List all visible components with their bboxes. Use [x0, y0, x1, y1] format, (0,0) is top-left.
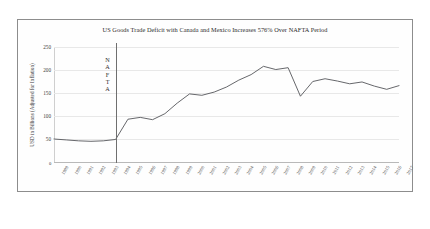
x-axis-tick-label: 1994: [123, 165, 132, 175]
x-axis-tick-label: 2009: [307, 165, 316, 175]
x-axis-tick-label: 2011: [332, 165, 341, 175]
plot-area: 50100150200250 NAFTA: [54, 47, 399, 162]
nafta-letter: A: [105, 85, 109, 92]
x-axis-tick-label: 2008: [295, 165, 304, 175]
x-axis-tick-label: 2007: [283, 165, 292, 175]
x-axis-tick-label: 2000: [197, 165, 206, 175]
x-axis-tick-label: 2014: [369, 165, 378, 175]
nafta-vertical-line: [116, 43, 117, 163]
y-axis-tick-label: 50: [46, 136, 51, 142]
x-axis-tick-label: 2017: [406, 165, 415, 175]
x-axis-tick-label: 1989: [61, 165, 70, 175]
x-axis-tick-label: 1991: [86, 165, 95, 175]
x-axis-tick-label: 1992: [98, 165, 107, 175]
y-axis-title: USD in Billions (Adjusted for Inflation): [27, 47, 37, 162]
x-axis-tick-label: 2005: [258, 165, 267, 175]
x-axis-tick-label: 1995: [135, 165, 144, 175]
nafta-annotation-label: NAFTA: [103, 56, 113, 93]
x-axis-tick-label: 2001: [209, 165, 218, 175]
y-axis-tick-label: 150: [43, 90, 51, 96]
nafta-letter: T: [106, 78, 110, 85]
nafta-letter: A: [105, 63, 109, 70]
x-axis-tick-label: 1996: [147, 165, 156, 175]
x-axis-tick-label: 2006: [270, 165, 279, 175]
y-axis-tick-label: 100: [43, 113, 51, 119]
chart-figure: US Goods Trade Deficit with Canada and M…: [17, 19, 413, 192]
y-axis-title-text: USD in Billions (Adjusted for Inflation): [29, 63, 35, 146]
x-axis-tick-label: 2010: [320, 165, 329, 175]
y-axis-tick-label: 250: [43, 44, 51, 50]
x-axis-tick-label: 1993: [110, 165, 119, 175]
x-axis-tick-label: 2015: [381, 165, 390, 175]
chart-title: US Goods Trade Deficit with Canada and M…: [18, 26, 412, 33]
origin-tick-label: 0: [49, 161, 51, 166]
x-axis-tick-label: 2004: [246, 165, 255, 175]
x-axis-line: [54, 162, 399, 163]
nafta-letter: F: [106, 71, 109, 78]
x-axis-tick-label: 2013: [357, 165, 366, 175]
x-axis-tick-label: 2012: [344, 165, 353, 175]
x-axis-tick-label: 1999: [184, 165, 193, 175]
x-axis-tick-label: 2016: [394, 165, 403, 175]
nafta-letter: N: [105, 56, 109, 63]
x-axis-tick-label: 1998: [172, 165, 181, 175]
x-axis-tick-label: 1990: [73, 165, 82, 175]
y-axis-tick-label: 200: [43, 67, 51, 73]
x-axis-tick-label: 1997: [160, 165, 169, 175]
x-axis-tick-label: 2003: [233, 165, 242, 175]
x-axis-tick-label: 2002: [221, 165, 230, 175]
